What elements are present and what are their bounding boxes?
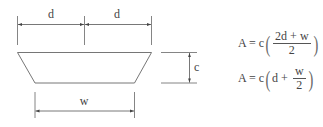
formula-2-denominator: 2: [296, 79, 302, 92]
formula-1-close-paren: ): [313, 32, 318, 56]
formula-1-denominator: 2: [289, 44, 295, 57]
formula-1-lhs: A = c: [238, 36, 264, 51]
formula-2-close-paren: ): [308, 67, 313, 91]
trapezoid-shape: [18, 53, 152, 84]
c-label: c: [194, 60, 199, 74]
d-left-label: d: [48, 7, 54, 21]
formula-2-prefix: d +: [272, 71, 288, 86]
trapezoid-diagram: d d c w: [0, 0, 323, 127]
w-label: w: [80, 94, 89, 108]
formula-1-numerator: 2d + w: [273, 30, 310, 43]
formula-1-open-paren: (: [266, 32, 271, 56]
formula-1-fraction: 2d + w 2: [273, 30, 310, 57]
formula-2-open-paren: (: [266, 67, 271, 91]
formula-2-numerator: w: [293, 65, 306, 78]
area-formula-2: A = c ( d + w 2 ): [238, 65, 315, 92]
formula-2-fraction: w 2: [293, 65, 306, 92]
d-right-label: d: [114, 7, 120, 21]
area-formula-1: A = c ( 2d + w 2 ): [238, 30, 320, 57]
formula-2-lhs: A = c: [238, 71, 264, 86]
